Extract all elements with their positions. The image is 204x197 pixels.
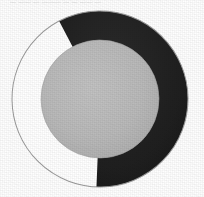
figure-canvas: — —— — ——— — — —— —: [0, 0, 204, 197]
chart-rotation-wrapper: [0, 0, 204, 197]
donut-chart: [0, 0, 204, 197]
donut-chart-svg: [0, 0, 204, 197]
